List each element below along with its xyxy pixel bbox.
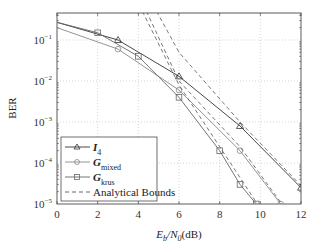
y-tick-label: 10−4 [34,156,53,169]
y-tick-label: 10−3 [34,115,53,128]
plot-area: 02468101210−110−210−310−410−5I4GmixedGkr… [0,0,321,246]
legend-item-label: Analytical Bounds [93,186,175,198]
x-tick-label: 0 [54,208,60,220]
ber-chart: 02468101210−110−210−310−410−5I4GmixedGkr… [0,0,321,246]
legend: I4GmixedGkrusAnalytical Bounds [61,137,175,201]
x-axis-label: Eb/N0(dB) [155,228,202,243]
x-tick-label: 4 [136,208,142,220]
x-tick-label: 6 [176,208,182,220]
y-tick-label: 10−5 [34,197,53,210]
x-tick-label: 2 [95,208,101,220]
y-axis-label: BER [6,97,18,119]
x-tick-label: 8 [217,208,223,220]
y-tick-label: 10−1 [34,33,53,46]
x-tick-label: 12 [296,208,307,220]
x-tick-label: 10 [255,208,267,220]
y-tick-label: 10−2 [34,74,53,87]
